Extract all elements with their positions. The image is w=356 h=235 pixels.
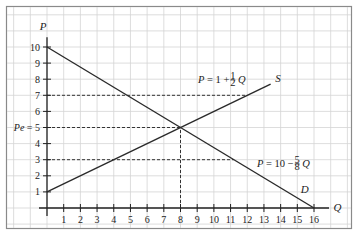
x-tick-label: 5: [128, 214, 133, 225]
svg-text:Q: Q: [302, 158, 310, 169]
svg-text:P = 1 +: P = 1 +: [197, 74, 229, 85]
x-tick-label: 10: [209, 214, 219, 225]
x-tick-label: 8: [178, 214, 183, 225]
svg-text:2: 2: [230, 77, 235, 88]
y-tick-label: 9: [35, 58, 40, 69]
x-tick-label: 15: [292, 214, 302, 225]
x-tick-label: 11: [226, 214, 236, 225]
svg-text:8: 8: [295, 161, 300, 172]
x-tick-label: 14: [276, 214, 286, 225]
y-tick-label: 7: [35, 90, 40, 101]
y-tick-label: 2: [35, 170, 40, 181]
x-tick-label: 13: [259, 214, 269, 225]
demand-curve-label: D: [300, 183, 309, 195]
supply-curve-label: S: [275, 72, 281, 84]
y-tick-label: 3: [35, 154, 40, 165]
y-tick-label: 8: [35, 74, 40, 85]
x-tick-label: 9: [195, 214, 200, 225]
y-tick-label: 1: [35, 186, 40, 197]
x-tick-label: 7: [161, 214, 166, 225]
y-tick-label: 4: [35, 138, 40, 149]
supply-demand-chart: 123456789101112131415161234Pe = 5678910P…: [0, 0, 356, 235]
y-tick-label: 10: [30, 42, 40, 53]
x-tick-label: 16: [309, 214, 319, 225]
svg-text:P = 10 −: P = 10 −: [256, 158, 294, 169]
svg-text:Q: Q: [238, 74, 246, 85]
y-tick-label-equilibrium: Pe = 5: [13, 122, 40, 133]
x-tick-label: 1: [61, 214, 66, 225]
x-tick-label: 2: [78, 214, 83, 225]
x-axis-title: Q: [333, 201, 341, 213]
x-tick-label: 3: [95, 214, 100, 225]
y-tick-label: 6: [35, 106, 40, 117]
x-tick-label: 6: [145, 214, 150, 225]
x-tick-label: 12: [242, 214, 252, 225]
x-tick-label: 4: [111, 214, 116, 225]
y-axis-title: P: [39, 20, 47, 32]
